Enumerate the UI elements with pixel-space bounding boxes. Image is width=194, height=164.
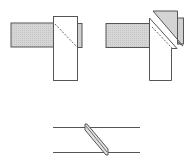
miter-joint-figure	[106, 11, 184, 81]
horizontal-bar	[11, 23, 54, 47]
vertical-post	[54, 17, 78, 81]
joint-diagrams	[0, 0, 194, 164]
butt-joint-figure	[11, 17, 82, 81]
splice-joint-figure	[53, 124, 140, 155]
splice-center-line	[86, 126, 107, 152]
horizontal-bar	[106, 24, 150, 48]
